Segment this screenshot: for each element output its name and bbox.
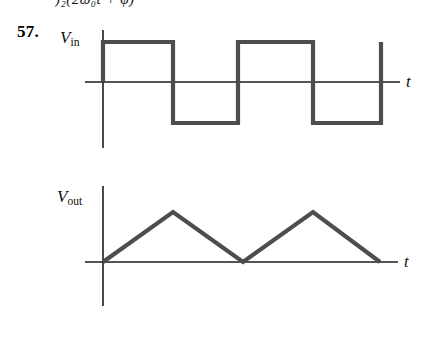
- waveform-plots: [0, 0, 424, 346]
- vin-plot: [85, 30, 400, 148]
- vout-plot: [85, 186, 398, 306]
- figure-page: )₂(2ω₀t + φ) 57. Vin Vout t t: [0, 0, 424, 346]
- vout-triangle-waveform: [103, 212, 380, 262]
